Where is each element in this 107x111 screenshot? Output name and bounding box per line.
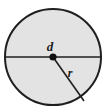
diameter-label: d: [47, 39, 54, 54]
circle-diagram: d r: [0, 0, 107, 111]
center-point-dot: [49, 53, 56, 60]
radius-label: r: [68, 66, 73, 80]
circle-diagram-container: d r: [0, 0, 107, 111]
